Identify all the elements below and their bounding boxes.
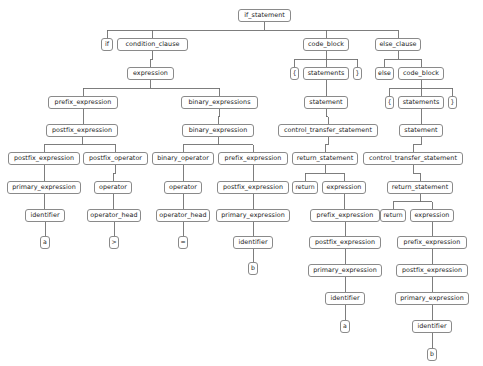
tree-leaf-: { [385,96,394,109]
tree-leaf-b: b [248,262,258,275]
tree-leaf-: = [178,236,188,249]
tree-node-else_clause: else_clause [375,38,421,51]
tree-leaf-return: return [292,181,318,194]
tree-node-operator: operator [94,181,132,194]
tree-node-if: if [101,38,113,51]
tree-leaf-a: a [340,320,350,333]
tree-node-prefix_expression: prefix_expression [310,209,380,222]
tree-node-primary_expression: primary_expression [395,292,469,305]
tree-leaf-a: a [40,236,50,249]
tree-leaf-else: else [375,67,394,80]
tree-leaf-b: b [427,348,437,361]
tree-node-postfix_expression: postfix_expression [46,124,118,137]
syntax-tree-diagram: if_statementifcondition_clausecode_block… [0,0,483,366]
tree-node-identifier: identifier [325,292,365,305]
tree-node-prefix_expression: prefix_expression [48,96,118,109]
tree-node-primary_expression: primary_expression [7,181,81,194]
tree-node-prefix_expression: prefix_expression [218,152,288,165]
tree-node-condition_clause: condition_clause [117,38,188,51]
tree-node-postfix_operator: postfix_operator [83,152,148,165]
tree-node-operator: operator [164,181,202,194]
tree-node-statement: statement [304,96,348,109]
tree-node-statement: statement [399,124,443,137]
tree-node-expression: expression [127,67,174,80]
tree-node-primary_expression: primary_expression [308,264,382,277]
tree-node-return_statement: return_statement [387,181,453,194]
tree-node-postfix_expression: postfix_expression [217,181,289,194]
tree-node-binary_expression: binary_expression [182,124,254,137]
tree-leaf-: } [353,67,362,80]
tree-node-identifier: identifier [233,236,273,249]
tree-node-if_statement: if_statement [238,9,291,22]
tree-leaf-: { [290,67,299,80]
tree-node-binary_expressions: binary_expressions [181,96,258,109]
tree-node-control_transfer_statement: control_transfer_statement [278,124,378,137]
tree-node-operator_head: operator_head [87,209,141,222]
tree-leaf-return: return [380,209,406,222]
tree-node-postfix_expression: postfix_expression [8,152,80,165]
tree-node-identifier: identifier [25,209,65,222]
tree-node-binary_operator: binary_operator [152,152,214,165]
tree-node-expression: expression [410,209,454,222]
tree-node-return_statement: return_statement [292,152,358,165]
tree-leaf-: > [109,236,119,249]
tree-node-postfix_expression: postfix_expression [396,264,468,277]
tree-node-code_block: code_block [398,67,444,80]
tree-node-identifier: identifier [412,320,452,333]
tree-node-postfix_expression: postfix_expression [309,236,381,249]
tree-node-statements: statements [303,67,349,80]
tree-node-control_transfer_statement: control_transfer_statement [363,152,463,165]
tree-node-primary_expression: primary_expression [216,209,290,222]
tree-node-operator_head: operator_head [156,209,210,222]
tree-node-expression: expression [322,181,366,194]
tree-node-statements: statements [398,96,444,109]
tree-leaf-: } [448,96,457,109]
tree-node-code_block: code_block [303,38,349,51]
tree-node-prefix_expression: prefix_expression [397,236,467,249]
